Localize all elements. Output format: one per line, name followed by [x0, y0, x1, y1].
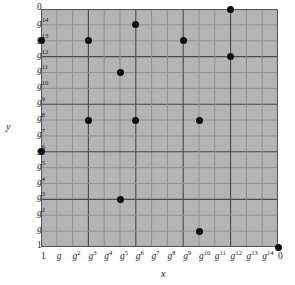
- data-point: [275, 244, 282, 251]
- grid-lines: [41, 9, 278, 247]
- figure-root: 0g14g13g12g11g10g9g8g7g6g5g4g3g2g1 1gg2g…: [0, 0, 295, 285]
- plot-frame: [42, 10, 278, 247]
- data-point: [180, 37, 187, 44]
- plot-area: [41, 9, 278, 247]
- data-point: [85, 117, 92, 124]
- data-point: [227, 6, 234, 13]
- data-point: [196, 228, 203, 235]
- data-point: [117, 69, 124, 76]
- x-axis-label: x: [161, 268, 165, 279]
- data-point: [196, 117, 203, 124]
- data-point: [132, 117, 139, 124]
- y-axis-label: y: [6, 121, 10, 132]
- data-point: [117, 196, 124, 203]
